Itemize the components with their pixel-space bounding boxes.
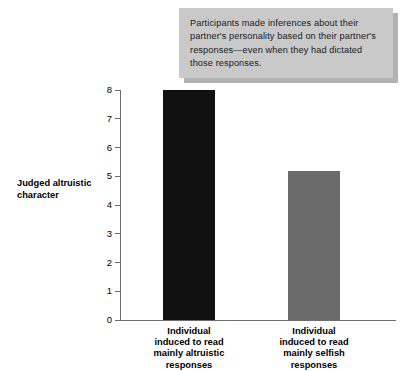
bars-layer [0,0,403,321]
bar-2 [288,171,340,321]
bar-1 [163,90,215,320]
x-axis-label-2: Individual induced to read mainly selfis… [244,326,384,371]
x-axis-label-1: Individual induced to read mainly altrui… [119,326,259,371]
